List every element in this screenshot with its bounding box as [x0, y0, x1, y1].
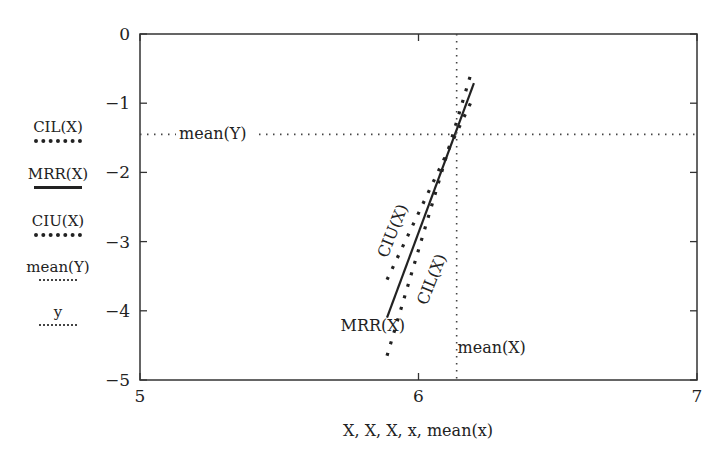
y-tick-label: −4	[105, 301, 130, 321]
y-tick-label: 0	[119, 24, 130, 44]
plot-frame	[140, 34, 697, 380]
annotation-label: CIU(X)	[373, 201, 412, 260]
annotation-label: MRR(X)	[341, 316, 405, 335]
annotation-label: mean(X)	[457, 338, 525, 357]
chart-canvas: 5670−1−2−3−4−5mean(Y)CIU(X)CIL(X)MRR(X)m…	[0, 0, 715, 454]
annotation-label: CIL(X)	[413, 251, 450, 307]
x-tick-label: 5	[135, 386, 146, 406]
x-axis-label: X, X, X, x, mean(x)	[343, 421, 493, 440]
series-ciu-x	[387, 98, 473, 279]
y-tick-label: −3	[105, 232, 130, 252]
y-tick-label: −5	[105, 370, 130, 390]
annotation-label: mean(Y)	[179, 124, 247, 143]
y-tick-label: −2	[105, 162, 130, 182]
x-tick-label: 6	[413, 386, 424, 406]
y-tick-label: −1	[105, 93, 130, 113]
plot-area: 5670−1−2−3−4−5mean(Y)CIU(X)CIL(X)MRR(X)m…	[105, 24, 702, 406]
x-tick-label: 7	[692, 386, 703, 406]
